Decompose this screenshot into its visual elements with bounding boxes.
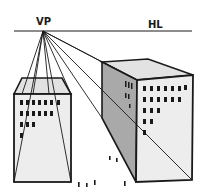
vp-label: VP: [36, 16, 51, 27]
hl-label: HL: [148, 19, 163, 30]
right-building: [102, 59, 193, 182]
perspective-diagram: VP HL: [0, 0, 207, 194]
right-building-side: [102, 62, 137, 182]
right-building-front: [136, 75, 193, 182]
people-figures: [78, 156, 126, 187]
